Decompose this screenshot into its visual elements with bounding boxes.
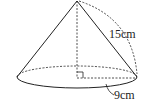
cone-diagram: 15cm 9cm [0,0,149,112]
right-angle-mark [77,72,83,78]
radius-label: 9cm [114,88,135,102]
slant-label: 15cm [109,27,136,41]
base-front-edge [17,77,137,88]
cone-left-side [17,1,77,77]
